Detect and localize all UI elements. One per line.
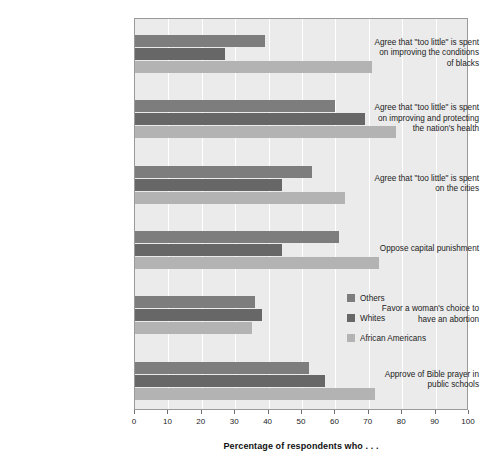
category-label: Oppose capital punishment [357,244,485,255]
x-tick-label: 70 [355,417,381,426]
x-tick-label: 30 [221,417,247,426]
x-tick-mark [368,410,369,414]
legend-label: Others [360,294,385,303]
category-label-line: Agree that "too little" is spent [357,38,479,49]
bar [135,296,255,308]
category-label-line: on improving the conditions [357,48,479,59]
x-tick-mark [134,410,135,414]
gridline [436,19,437,409]
legend-swatch-icon [347,334,355,342]
legend-swatch-icon [347,294,355,302]
x-tick-mark [201,410,202,414]
x-tick-mark [268,410,269,414]
legend-swatch-icon [347,314,355,322]
category-label-line: on the cities [357,184,479,195]
x-tick-label: 50 [288,417,314,426]
x-tick-label: 40 [255,417,281,426]
category-label-line: public schools [357,380,479,391]
x-tick-label: 10 [154,417,180,426]
category-label-line: Approve of Bible prayer in [357,370,479,381]
legend-label: African Americans [360,334,426,343]
category-label-line: on improving and protecting [357,114,479,125]
category-label: Agree that "too little" is spenton the c… [357,174,485,195]
bar [135,113,365,125]
gridline [168,19,169,409]
x-tick-label: 60 [321,417,347,426]
category-label-line: Oppose capital punishment [357,244,479,255]
x-tick-label: 20 [188,417,214,426]
plot-area [134,18,468,410]
gridline [302,19,303,409]
x-tick-mark [435,410,436,414]
gridline [402,19,403,409]
bar [135,362,309,374]
x-tick-label: 100 [455,417,481,426]
legend-label: Whites [360,314,385,323]
bar [135,48,225,60]
x-tick-mark [468,410,469,414]
gridline [202,19,203,409]
legend-item: Others [347,290,426,306]
x-tick-label: 0 [121,417,147,426]
bar [135,192,345,204]
bar [135,244,282,256]
gridline [269,19,270,409]
gridline [369,19,370,409]
category-label: Approve of Bible prayer inpublic schools [357,370,485,391]
bar [135,100,335,112]
category-label: Agree that "too little" is spenton impro… [357,38,485,70]
x-tick-mark [301,410,302,414]
gridline [335,19,336,409]
bar [135,166,312,178]
x-tick-mark [401,410,402,414]
category-label: Agree that "too little" is spenton impro… [357,103,485,135]
bar [135,309,262,321]
category-label-line: Agree that "too little" is spent [357,103,479,114]
legend-item: Whites [347,310,426,326]
gridline [235,19,236,409]
bar [135,257,379,269]
bar [135,322,252,334]
bar [135,231,339,243]
x-tick-mark [167,410,168,414]
category-label-line: Agree that "too little" is spent [357,174,479,185]
bar-chart: Agree that "too little" is spenton impro… [0,0,485,469]
category-label-line: the nation's health [357,124,479,135]
legend-item: African Americans [347,330,426,346]
bar [135,179,282,191]
category-label-line: of blacks [357,59,479,70]
bar [135,61,372,73]
x-tick-label: 80 [388,417,414,426]
bar [135,35,265,47]
x-tick-mark [334,410,335,414]
bar [135,375,325,387]
x-axis-title: Percentage of respondents who . . . [134,441,468,451]
x-tick-mark [234,410,235,414]
bar [135,388,375,400]
x-tick-label: 90 [422,417,448,426]
chart-legend: OthersWhitesAfrican Americans [347,290,426,350]
